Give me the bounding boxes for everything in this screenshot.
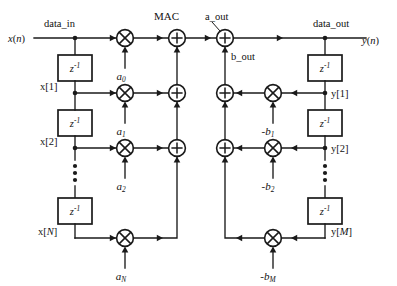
add-node-1 [169, 85, 186, 102]
arrow-icon [122, 156, 129, 162]
arrow-icon [236, 90, 242, 97]
multiply-node-an [117, 230, 134, 247]
arrow-icon [291, 235, 297, 242]
coef-label-bm: -bM [260, 270, 276, 284]
multiply-node-a2 [117, 140, 134, 157]
arrow-icon [174, 46, 181, 52]
arrow-icon [291, 145, 297, 152]
tap-label-y2: y[2] [331, 143, 349, 154]
arrow-icon [157, 145, 163, 152]
coef-label-b2: -b2 [262, 180, 275, 194]
arrow-icon [291, 90, 297, 97]
coef-label-a1: a1 [116, 125, 125, 139]
coef-label-a2: a2 [116, 180, 126, 194]
arrow-icon [110, 235, 116, 242]
ellipsis-dot [323, 171, 327, 175]
multiply-node-a0 [117, 30, 134, 47]
wire-mult-bm-to-accum [225, 157, 265, 239]
arrow-icon [122, 246, 129, 252]
output-main-line [185, 30, 366, 47]
arrow-icon [236, 145, 242, 152]
a-out-label: a_out [205, 11, 228, 22]
wire-mult-n-to-accum [133, 157, 177, 239]
multiply-node-a1 [117, 85, 134, 102]
arrow-icon [110, 90, 116, 97]
tap-label-xn: x[N] [38, 226, 57, 237]
arrow-icon [222, 101, 229, 107]
arrow-icon [222, 46, 229, 52]
ellipsis-dot [73, 171, 77, 175]
tap-label-x2: x[2] [40, 136, 58, 147]
coef-label-a0: a0 [116, 70, 126, 84]
data-out-label: data_out [313, 18, 349, 29]
multiply-node-bm [265, 230, 282, 247]
arrow-icon [270, 101, 277, 107]
ellipsis-dot [323, 178, 327, 182]
add-node-0 [169, 30, 186, 47]
multiply-node-b2 [265, 140, 282, 157]
arrow-icon [157, 90, 163, 97]
input-signal-label: x(n) [7, 33, 25, 45]
tap-label-x1: x[1] [40, 81, 58, 92]
tap-label-y1: y[1] [331, 88, 349, 99]
add-node-b1 [217, 85, 234, 102]
data-in-label: data_in [44, 18, 76, 29]
multiply-node-b1 [265, 85, 282, 102]
arrow-icon [110, 145, 116, 152]
arrow-icon [205, 35, 211, 42]
arrow-icon [110, 35, 116, 42]
ellipsis-dot [73, 178, 77, 182]
output-signal-label: y(n) [361, 35, 379, 47]
arrow-icon [236, 235, 242, 242]
arrow-icon [122, 101, 129, 107]
feedforward-row-0 [34, 30, 185, 68]
add-node-output [217, 30, 234, 47]
coef-label-b1: -b1 [262, 125, 275, 139]
arrow-icon [157, 35, 163, 42]
arrow-icon [222, 156, 229, 162]
tap-label-ym: y[M] [331, 226, 352, 237]
b-out-label: b_out [231, 51, 255, 62]
coef-label-an: aN [116, 270, 128, 284]
arrow-icon [270, 246, 277, 252]
arrow-icon [270, 156, 277, 162]
mac-label: MAC [154, 10, 179, 22]
a-out-leader-line [212, 22, 220, 31]
diagram-canvas: x(n) data_in MAC a_out b_out data_out y(… [0, 0, 397, 286]
iir-filter-diagram: x(n) data_in MAC a_out b_out data_out y(… [0, 0, 397, 286]
arrow-icon [157, 235, 163, 242]
ellipsis-dot [73, 164, 77, 168]
ellipsis-dot [323, 164, 327, 168]
arrow-icon [174, 156, 181, 162]
add-node-b2 [217, 140, 234, 157]
arrow-icon [174, 101, 181, 107]
arrow-icon [277, 35, 283, 42]
add-node-2 [169, 140, 186, 157]
arrow-icon [122, 46, 129, 52]
